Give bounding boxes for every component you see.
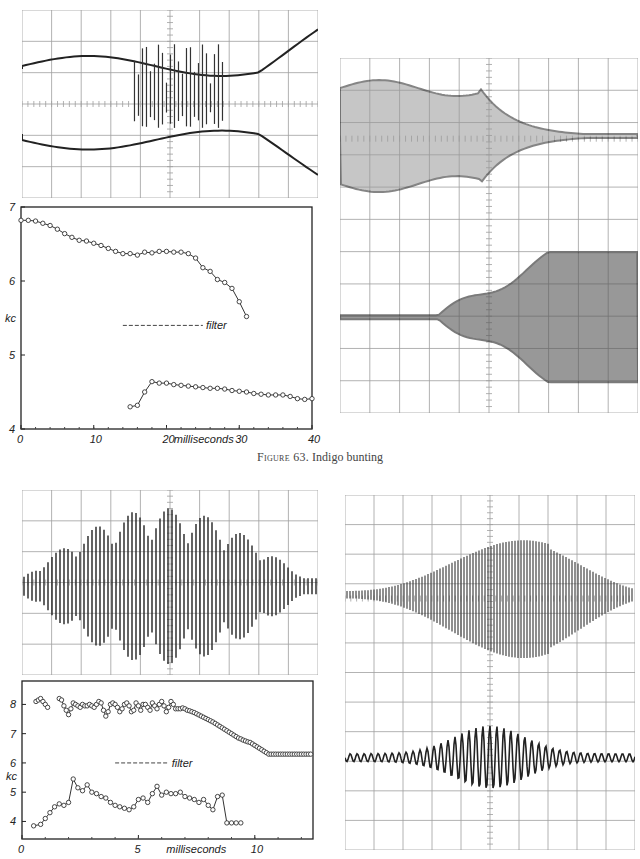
svg-text:milliseconds: milliseconds: [174, 433, 234, 445]
svg-text:7: 7: [9, 201, 16, 213]
svg-text:0: 0: [18, 843, 25, 855]
oscillogram-top-left: [22, 10, 318, 198]
svg-text:4: 4: [9, 423, 15, 435]
svg-text:5: 5: [10, 786, 17, 798]
figure-label: Figure 63.: [257, 450, 309, 464]
svg-text:5: 5: [9, 349, 16, 361]
oscillogram-bottom-left: [22, 490, 318, 675]
svg-text:30: 30: [235, 433, 248, 445]
svg-text:kc: kc: [6, 770, 18, 782]
svg-text:filter: filter: [172, 757, 194, 769]
svg-text:milliseconds: milliseconds: [166, 843, 226, 855]
svg-text:kc: kc: [5, 312, 17, 324]
svg-text:10: 10: [251, 843, 264, 855]
oscillogram-bottom-right: [345, 495, 635, 850]
oscillogram-top-right: [340, 58, 638, 413]
frequency-chart-lower: 456780510millisecondskcfilter: [0, 670, 340, 858]
svg-text:8: 8: [10, 698, 17, 710]
svg-text:4: 4: [10, 815, 16, 827]
frequency-chart-indigo-bunting: 4567010203040millisecondskcfilter: [0, 195, 340, 447]
svg-text:7: 7: [10, 728, 17, 740]
svg-text:6: 6: [9, 275, 16, 287]
svg-text:6: 6: [10, 757, 17, 769]
svg-text:0: 0: [17, 433, 24, 445]
svg-text:10: 10: [90, 433, 103, 445]
svg-text:filter: filter: [206, 319, 228, 331]
figure-caption: Figure 63. Indigo bunting: [0, 450, 640, 465]
svg-text:40: 40: [308, 433, 321, 445]
figure-title: Indigo bunting: [309, 450, 383, 464]
svg-text:5: 5: [134, 843, 141, 855]
